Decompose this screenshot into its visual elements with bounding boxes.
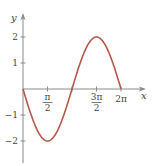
y-tick-label: 2	[12, 32, 18, 42]
x-tick-label: 2π	[115, 94, 127, 104]
y-axis-label: y	[10, 12, 17, 23]
y-tick-label: 1	[12, 58, 18, 68]
x-axis-label: x	[141, 90, 147, 101]
x-tick-label-denominator: 2	[45, 103, 51, 113]
chart: xyπ23π22π21−1−2	[0, 0, 154, 166]
y-tick-label: −1	[5, 110, 18, 120]
x-tick-label-denominator: 2	[94, 103, 100, 113]
x-tick-label-numerator: 3π	[91, 92, 103, 102]
x-tick-label-numerator: π	[45, 92, 51, 102]
y-tick-label: −2	[5, 136, 18, 146]
